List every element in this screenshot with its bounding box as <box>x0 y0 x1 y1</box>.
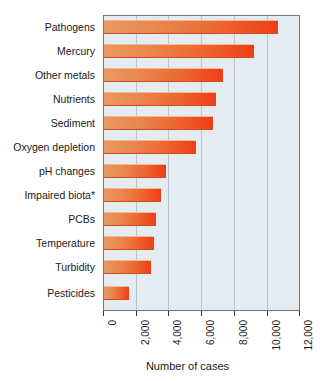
xaxis-tick-4000 <box>168 311 169 316</box>
bar-mercury <box>104 44 254 58</box>
category-label-pathogens: Pathogens <box>0 21 95 33</box>
category-label-temperature: Temperature <box>0 237 95 249</box>
bar-temperature <box>104 236 154 250</box>
xaxis-tick-12000 <box>299 311 300 316</box>
bar-chart: Pathogens Mercury Other metals Nutrients… <box>0 0 320 381</box>
bar-sediment <box>104 116 213 130</box>
category-label-other-metals: Other metals <box>0 69 95 81</box>
gridline-4000 <box>168 16 169 310</box>
bar-nutrients <box>104 92 216 106</box>
xaxis-label-10000: 10,000 <box>271 320 282 351</box>
xaxis-tick-10000 <box>267 311 268 316</box>
xaxis-label-12000: 12,000 <box>303 320 314 351</box>
category-axis-labels: Pathogens Mercury Other metals Nutrients… <box>0 15 100 311</box>
xaxis-tick-0 <box>103 311 104 316</box>
gridline-6000 <box>201 16 202 310</box>
bar-pesticides <box>104 286 129 300</box>
category-label-ph-changes: pH changes <box>0 165 95 177</box>
category-label-nutrients: Nutrients <box>0 93 95 105</box>
bar-oxygen-depletion <box>104 140 196 154</box>
xaxis-label-6000: 6,000 <box>205 320 216 345</box>
category-label-impaired-biota: Impaired biota* <box>0 189 95 201</box>
xaxis-tick-8000 <box>234 311 235 316</box>
gridline-8000 <box>234 16 235 310</box>
category-label-turbidity: Turbidity <box>0 261 95 273</box>
bar-impaired-biota <box>104 188 161 202</box>
category-label-sediment: Sediment <box>0 117 95 129</box>
bar-other-metals <box>104 68 223 82</box>
category-label-pcbs: PCBs <box>0 213 95 225</box>
gridline-10000 <box>267 16 268 310</box>
category-label-oxygen-depletion: Oxygen depletion <box>0 141 95 153</box>
xaxis-label-4000: 4,000 <box>172 320 183 345</box>
bar-pcbs <box>104 212 156 226</box>
xaxis-label-8000: 8,000 <box>238 320 249 345</box>
category-label-pesticides: Pesticides <box>0 287 95 299</box>
category-label-mercury: Mercury <box>0 45 95 57</box>
xaxis-label-0: 0 <box>107 320 118 326</box>
xaxis-title-text: Number of cases <box>91 360 229 372</box>
xaxis-tick-6000 <box>201 311 202 316</box>
bar-ph-changes <box>104 164 166 178</box>
xaxis-label-2000: 2,000 <box>140 320 151 345</box>
bar-pathogens <box>104 20 278 34</box>
plot-area <box>103 15 300 311</box>
xaxis-tick-2000 <box>136 311 137 316</box>
xaxis-title: Number of cases <box>0 360 320 372</box>
bar-turbidity <box>104 260 151 274</box>
